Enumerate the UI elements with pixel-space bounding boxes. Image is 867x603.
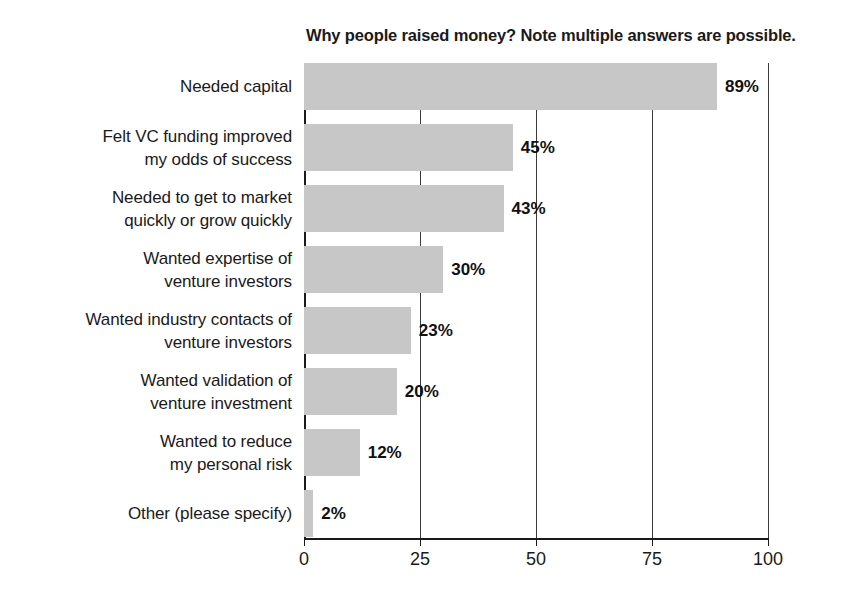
category-label-line: my odds of success [145, 148, 292, 171]
category-label-line: venture investors [164, 270, 292, 293]
bar[interactable] [304, 307, 411, 354]
category-label: Wanted expertise ofventure investors [0, 246, 292, 293]
category-label-line: Needed to get to market [112, 186, 292, 209]
category-label: Other (please specify) [0, 490, 292, 537]
x-tick-mark-25 [420, 538, 421, 546]
bar-value-label: 12% [360, 443, 402, 463]
bar[interactable] [304, 246, 443, 293]
bar-row: 89% [304, 63, 768, 110]
bar-value-label: 43% [504, 199, 546, 219]
bar-row: 45% [304, 124, 768, 171]
bar[interactable] [304, 429, 360, 476]
category-label-line: Felt VC funding improved [103, 125, 292, 148]
plot-area: 89%45%43%30%23%20%12%2% [304, 63, 768, 538]
bar-value-label: 20% [397, 382, 439, 402]
bar-row: 2% [304, 490, 768, 537]
bar-value-label: 2% [313, 504, 346, 524]
category-label: Needed to get to marketquickly or grow q… [0, 185, 292, 232]
category-label: Felt VC funding improvedmy odds of succe… [0, 124, 292, 171]
chart-title: Why people raised money? Note multiple a… [306, 26, 866, 45]
category-label: Wanted validation ofventure investment [0, 368, 292, 415]
bar-row: 43% [304, 185, 768, 232]
x-tick-label-50: 50 [526, 549, 546, 570]
category-label-line: Wanted industry contacts of [86, 308, 292, 331]
bar-value-label: 89% [717, 77, 759, 97]
bar-chart: Why people raised money? Note multiple a… [0, 0, 867, 603]
category-label-line: Wanted validation of [141, 369, 292, 392]
bar-row: 30% [304, 246, 768, 293]
gridline-100 [768, 63, 769, 538]
bar[interactable] [304, 368, 397, 415]
category-label-line: Other (please specify) [128, 502, 292, 525]
category-label-line: venture investment [150, 392, 292, 415]
x-axis-tick-labels: 0255075100 [0, 549, 867, 579]
bar-row: 20% [304, 368, 768, 415]
category-label-line: my personal risk [170, 453, 292, 476]
x-tick-mark-100 [768, 538, 769, 546]
bar-value-label: 23% [411, 321, 453, 341]
x-tick-label-0: 0 [299, 549, 309, 570]
x-tick-mark-75 [652, 538, 653, 546]
category-label-line: venture investors [164, 331, 292, 354]
x-tick-label-25: 25 [410, 549, 430, 570]
bar-value-label: 45% [513, 138, 555, 158]
bar[interactable] [304, 124, 513, 171]
bar-row: 23% [304, 307, 768, 354]
bar[interactable] [304, 63, 717, 110]
x-tick-mark-0 [304, 538, 305, 546]
category-label: Needed capital [0, 63, 292, 110]
category-label-line: Needed capital [180, 75, 292, 98]
bar-row: 12% [304, 429, 768, 476]
x-tick-label-100: 100 [753, 549, 783, 570]
category-label-line: Wanted to reduce [160, 430, 292, 453]
x-tick-label-75: 75 [642, 549, 662, 570]
category-label-line: quickly or grow quickly [124, 209, 292, 232]
category-label: Wanted industry contacts ofventure inves… [0, 307, 292, 354]
category-label-line: Wanted expertise of [143, 247, 292, 270]
bar[interactable] [304, 185, 504, 232]
bar-value-label: 30% [443, 260, 485, 280]
x-tick-mark-50 [536, 538, 537, 546]
category-axis-labels: Needed capitalFelt VC funding improvedmy… [0, 63, 292, 538]
category-label: Wanted to reducemy personal risk [0, 429, 292, 476]
bar[interactable] [304, 490, 313, 537]
